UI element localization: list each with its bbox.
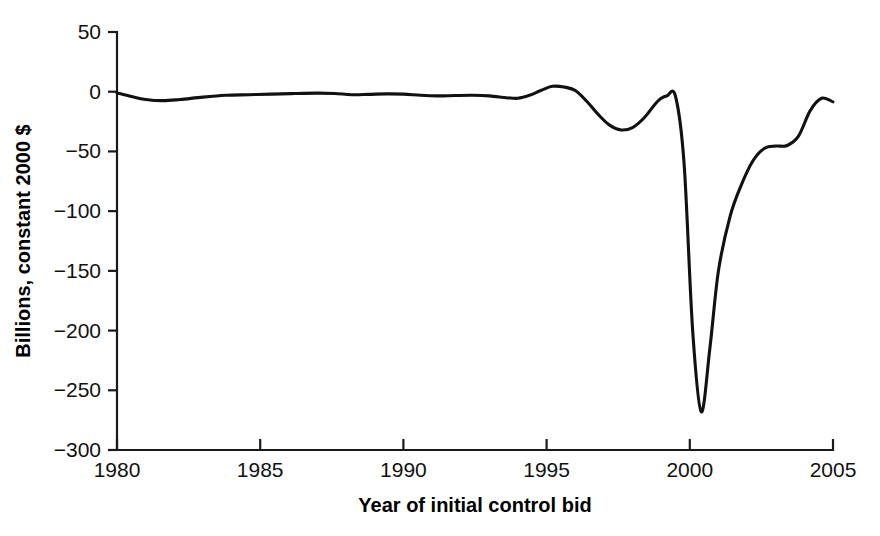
y-tick-label: 50 (78, 20, 101, 43)
x-axis-title: Year of initial control bid (358, 494, 591, 516)
x-tick-label: 1985 (237, 458, 284, 481)
line-chart: 500−50−100−150−200−250−300 1980198519901… (0, 0, 880, 536)
data-series-line (117, 86, 833, 412)
x-tick-label: 2000 (666, 458, 713, 481)
y-axis-title: Billions, constant 2000 $ (12, 124, 34, 357)
chart-figure: 500−50−100−150−200−250−300 1980198519901… (0, 0, 880, 536)
y-tick-label: −100 (54, 199, 101, 222)
x-tick-label: 1980 (94, 458, 141, 481)
x-tick-label: 1995 (523, 458, 570, 481)
y-tick-label: −150 (54, 259, 101, 282)
x-axis-tick-marks (117, 439, 833, 450)
y-tick-label: −50 (65, 139, 101, 162)
x-tick-label: 2005 (810, 458, 857, 481)
y-axis-tick-labels: 500−50−100−150−200−250−300 (54, 20, 101, 461)
y-tick-label: 0 (89, 80, 101, 103)
y-tick-label: −250 (54, 378, 101, 401)
x-axis-tick-labels: 198019851990199520002005 (94, 458, 857, 481)
x-tick-label: 1990 (380, 458, 427, 481)
y-tick-label: −200 (54, 319, 101, 342)
y-axis-tick-marks (108, 32, 117, 450)
